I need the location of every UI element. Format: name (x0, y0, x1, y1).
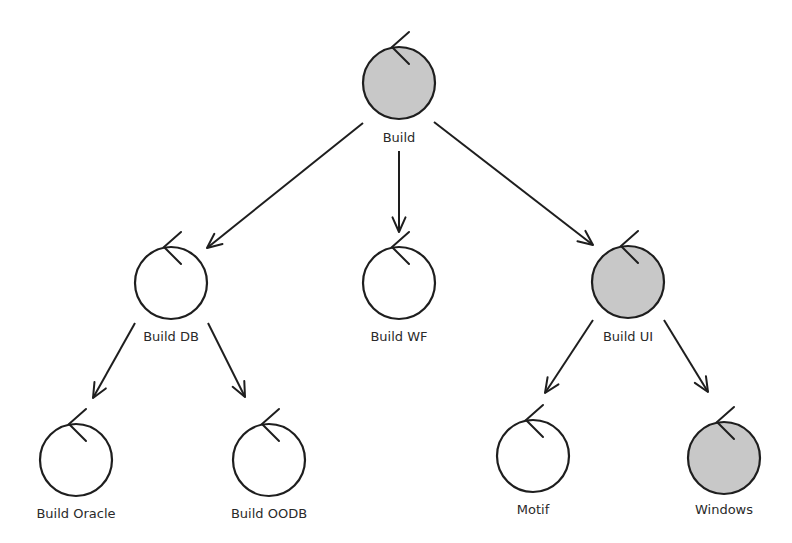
node-build-ui[interactable]: Build UI (592, 231, 664, 344)
node-label: Build UI (603, 329, 653, 344)
edge-build-db-to-build-oracle (93, 323, 135, 398)
node-circle[interactable] (40, 424, 112, 496)
node-circle[interactable] (363, 247, 435, 319)
node-circle[interactable] (592, 246, 664, 318)
edge-build-to-build-wf (392, 151, 405, 232)
arrowhead-icon (545, 377, 558, 393)
node-build-db[interactable]: Build DB (135, 232, 207, 344)
arrowhead-icon (93, 382, 106, 398)
node-label: Windows (695, 502, 753, 517)
nodes-group: BuildBuild DBBuild WFBuild UIBuild Oracl… (36, 32, 760, 521)
edge-line (207, 123, 363, 248)
edge-build-ui-to-motif (545, 320, 593, 393)
node-circle[interactable] (688, 422, 760, 494)
node-label: Build Oracle (36, 506, 115, 521)
edge-build-to-build-ui (434, 122, 593, 245)
node-label: Build WF (370, 329, 427, 344)
edge-line (434, 122, 593, 245)
node-circle[interactable] (497, 420, 569, 492)
node-label: Build OODB (231, 506, 307, 521)
edge-line (208, 323, 245, 397)
node-circle[interactable] (363, 47, 435, 119)
task-tree-diagram: BuildBuild DBBuild WFBuild UIBuild Oracl… (0, 0, 792, 543)
edge-build-ui-to-windows (664, 320, 708, 392)
node-build-oodb[interactable]: Build OODB (231, 409, 307, 521)
node-build-wf[interactable]: Build WF (363, 232, 435, 344)
edge-line (545, 320, 593, 393)
node-label: Build (383, 130, 416, 145)
node-motif[interactable]: Motif (497, 405, 569, 517)
node-build-oracle[interactable]: Build Oracle (36, 409, 115, 521)
node-circle[interactable] (233, 424, 305, 496)
edge-line (664, 320, 708, 392)
node-label: Build DB (143, 329, 199, 344)
arrowhead-icon (695, 376, 708, 392)
edge-build-db-to-build-oodb (208, 323, 245, 397)
node-circle[interactable] (135, 247, 207, 319)
node-build[interactable]: Build (363, 32, 435, 145)
edge-build-to-build-db (207, 123, 363, 248)
edge-line (93, 323, 135, 398)
node-label: Motif (517, 502, 550, 517)
node-windows[interactable]: Windows (688, 407, 760, 517)
